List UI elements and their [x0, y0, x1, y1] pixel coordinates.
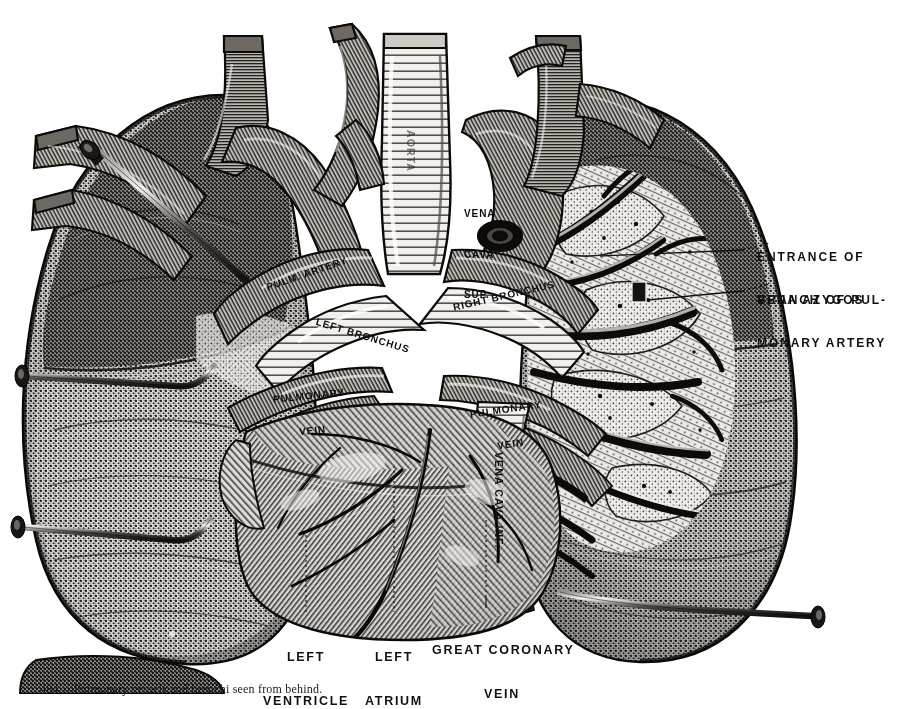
- label-pulmonary-vein-right: PULMONARY VEIN: [466, 375, 549, 467]
- label-pulmonary-vein-left: PULMONARY VEIN: [270, 362, 350, 452]
- label-vena-cava-sup: VENA CAVA SUP.: [464, 180, 495, 315]
- label-vena-cava-inf: VENA CAVA INF.: [493, 452, 505, 549]
- label-aorta: AORTA: [405, 130, 417, 172]
- plate-caption: 484.—Pulmonary vessels and bronchi seen …: [40, 682, 322, 697]
- label-great-coronary-vein: GREAT CORONARY VEIN: [432, 613, 572, 709]
- label-branch-pulmonary-artery: BRANCH OF PUL- MONARY ARTERY: [757, 265, 887, 364]
- label-left-atrium: LEFT ATRIUM: [348, 620, 440, 709]
